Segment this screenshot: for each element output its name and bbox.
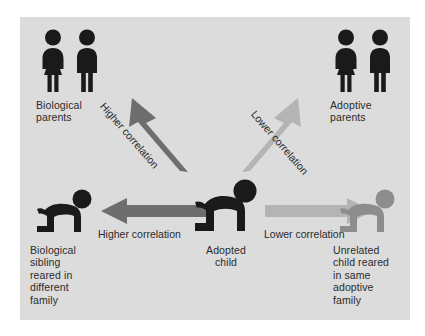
two-adults-icon [330,28,402,94]
biological-sibling-label: Biological sibling reared in different f… [30,244,110,306]
crawling-child-icon [34,188,96,238]
arrow-label-lower-correlation-unrelated: Lower correlation [264,228,345,240]
adopted-child-label: Adopted child [186,244,266,269]
adoptive-parents-label: Adoptive parents [330,99,425,124]
adoptive-parents-icon-group [330,28,402,94]
unrelated-child-label: Unrelated child reared in same adoptive … [333,244,417,306]
two-adults-icon [37,28,109,94]
biological-sibling-icon-group [34,188,96,238]
diagram-canvas: Biological parents Adoptive parents High… [0,0,425,336]
crawling-child-icon [337,188,399,238]
arrow-label-higher-correlation-sibling: Higher correlation [98,228,181,240]
adopted-child-icon-group [193,178,261,236]
unrelated-child-icon-group [337,188,399,238]
crawling-child-icon [193,178,261,236]
biological-parents-icon-group [37,28,109,94]
